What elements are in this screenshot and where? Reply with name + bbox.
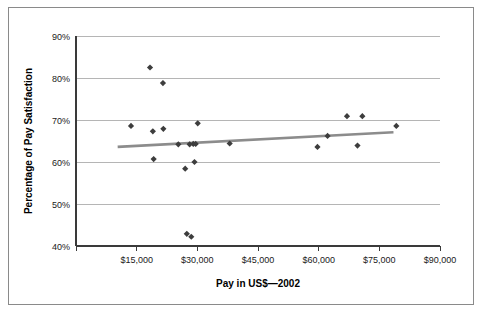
- data-point: [128, 123, 134, 129]
- y-tick-labels-group: 40%50%60%70%80%90%: [52, 32, 70, 252]
- y-tick-label: 50%: [52, 200, 70, 210]
- data-point: [324, 133, 330, 139]
- data-point: [182, 166, 188, 172]
- data-point: [314, 144, 320, 150]
- scatter-plot: 40%50%60%70%80%90% $15,000$30,000$45,000…: [0, 0, 483, 315]
- y-tick-label: 80%: [52, 74, 70, 84]
- chart-figure: 40%50%60%70%80%90% $15,000$30,000$45,000…: [0, 0, 483, 315]
- data-point: [160, 80, 166, 86]
- data-point: [175, 141, 181, 147]
- x-tick-labels-group: $15,000$30,000$45,000$60,000$75,000$90,0…: [120, 255, 456, 265]
- data-points-group: [128, 64, 400, 239]
- x-tick-label: $60,000: [302, 255, 335, 265]
- x-tick-label: $15,000: [120, 255, 153, 265]
- trend-line: [118, 132, 394, 147]
- x-tick-label: $75,000: [363, 255, 396, 265]
- x-tick-label: $90,000: [424, 255, 457, 265]
- y-axis-title: Percentage of Pay Satisfaction: [23, 68, 34, 214]
- gridlines-group: [76, 36, 440, 204]
- y-tick-label: 40%: [52, 242, 70, 252]
- data-point: [393, 123, 399, 129]
- y-tick-label: 60%: [52, 158, 70, 168]
- data-point: [151, 156, 157, 162]
- data-point: [191, 159, 197, 165]
- x-tick-label: $30,000: [181, 255, 214, 265]
- data-point: [344, 113, 350, 119]
- x-tick-marks-group: [76, 246, 440, 251]
- y-tick-label: 90%: [52, 32, 70, 42]
- y-tick-label: 70%: [52, 116, 70, 126]
- data-point: [354, 143, 360, 149]
- data-point: [160, 126, 166, 132]
- x-axis-title: Pay in US$—2002: [216, 278, 300, 289]
- data-point: [195, 120, 201, 126]
- data-point: [147, 64, 153, 70]
- data-point: [359, 113, 365, 119]
- x-tick-label: $45,000: [242, 255, 275, 265]
- data-point: [150, 128, 156, 134]
